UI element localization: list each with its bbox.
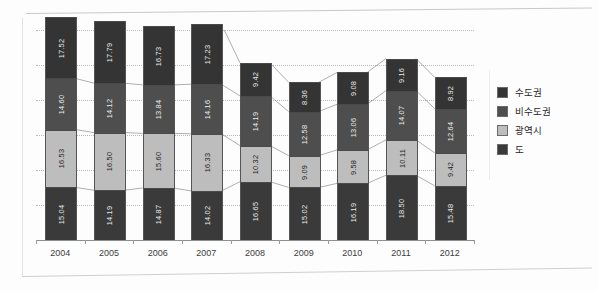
bar-value-label: 17.52 — [57, 39, 66, 59]
bar-segment[interactable]: 15.02 — [290, 187, 320, 240]
legend-item-3[interactable]: 도 — [497, 143, 551, 155]
bar-value-label: 15.02 — [300, 204, 309, 224]
x-axis-label-2006: 2006 — [133, 248, 183, 258]
x-tick — [36, 240, 37, 244]
bar-segment[interactable]: 12.64 — [436, 109, 466, 153]
x-axis-label-2011: 2011 — [376, 248, 426, 258]
legend-swatch-icon — [497, 144, 508, 155]
bar-segment[interactable]: 14.60 — [46, 78, 76, 129]
bar-value-label: 8.92 — [446, 86, 455, 101]
bar-segment[interactable]: 16.33 — [192, 134, 222, 191]
bar-2005[interactable]: 14.1916.5014.1217.79 — [94, 21, 126, 240]
x-axis-label-2004: 2004 — [35, 248, 85, 258]
bar-value-label: 14.16 — [203, 100, 212, 120]
bar-2004[interactable]: 15.0416.5314.6017.52 — [45, 17, 77, 240]
x-axis-line — [36, 240, 474, 241]
bar-segment[interactable]: 8.92 — [436, 77, 466, 108]
bar-value-label: 14.07 — [398, 106, 407, 126]
x-axis-label-2009: 2009 — [279, 248, 329, 258]
bar-value-label: 12.64 — [446, 121, 455, 141]
bar-segment[interactable]: 13.06 — [338, 104, 368, 150]
bar-segment[interactable]: 16.19 — [338, 183, 368, 240]
bar-segment[interactable]: 17.52 — [46, 17, 76, 78]
legend-label: 수도권 — [515, 85, 542, 99]
bar-segment[interactable]: 15.60 — [144, 133, 174, 188]
bar-segment[interactable]: 9.58 — [338, 150, 368, 184]
legend-item-1[interactable]: 비수도권 — [497, 105, 551, 117]
bar-value-label: 9.09 — [300, 164, 309, 179]
bar-segment[interactable]: 18.50 — [387, 175, 417, 240]
bar-value-label: 16.53 — [57, 149, 66, 169]
bar-segment[interactable]: 9.16 — [387, 59, 417, 91]
legend-label: 비수도권 — [515, 104, 551, 118]
bar-value-label: 16.33 — [203, 153, 212, 173]
chart-legend: 수도권비수도권광역시도 — [497, 86, 551, 162]
bar-value-label: 13.06 — [349, 118, 358, 138]
bar-2009[interactable]: 15.029.0912.588.36 — [289, 82, 321, 240]
legend-swatch-icon — [497, 87, 508, 98]
bar-segment[interactable]: 9.09 — [290, 156, 320, 188]
bar-segment[interactable]: 15.04 — [46, 187, 76, 240]
legend-swatch-icon — [497, 106, 508, 117]
bar-2010[interactable]: 16.199.5813.069.08 — [337, 72, 369, 240]
x-tick — [279, 240, 280, 244]
legend-item-2[interactable]: 광역시 — [497, 124, 551, 136]
bar-segment[interactable]: 16.73 — [144, 26, 174, 85]
bar-value-label: 12.58 — [300, 124, 309, 144]
bar-segment[interactable]: 14.16 — [192, 84, 222, 134]
bar-value-label: 15.60 — [154, 151, 163, 171]
plot-area: 15.0416.5314.6017.5214.1916.5014.1217.79… — [36, 30, 474, 240]
bar-segment[interactable]: 10.32 — [241, 146, 271, 182]
bar-segment[interactable]: 12.58 — [290, 112, 320, 156]
bar-segment[interactable]: 16.53 — [46, 130, 76, 188]
bar-value-label: 9.58 — [349, 159, 358, 174]
bar-segment[interactable]: 14.12 — [95, 83, 125, 132]
bar-segment[interactable]: 14.02 — [192, 191, 222, 240]
bar-value-label: 16.19 — [349, 202, 358, 222]
bar-value-label: 14.87 — [154, 205, 163, 225]
bar-value-label: 9.16 — [398, 68, 407, 83]
bar-segment[interactable]: 16.65 — [241, 182, 271, 240]
x-axis-label-2008: 2008 — [230, 248, 280, 258]
x-tick — [133, 240, 134, 244]
bar-segment[interactable]: 17.79 — [95, 21, 125, 83]
bar-2007[interactable]: 14.0216.3314.1617.23 — [191, 24, 223, 240]
bar-segment[interactable]: 10.11 — [387, 140, 417, 175]
frame-line-top — [26, 8, 592, 14]
bar-segment[interactable]: 14.19 — [241, 96, 271, 146]
bar-segment[interactable]: 15.48 — [436, 186, 466, 240]
x-axis-label-2007: 2007 — [181, 248, 231, 258]
legend-item-0[interactable]: 수도권 — [497, 86, 551, 98]
bar-segment[interactable]: 9.42 — [241, 63, 271, 96]
bar-value-label: 14.19 — [106, 206, 115, 226]
legend-label: 도 — [515, 142, 524, 156]
bar-2008[interactable]: 16.6510.3214.199.42 — [240, 63, 272, 240]
frame-line-left — [22, 18, 23, 276]
bar-value-label: 14.12 — [106, 99, 115, 119]
bar-segment[interactable]: 9.42 — [436, 153, 466, 186]
x-axis-label-2005: 2005 — [84, 248, 134, 258]
bar-value-label: 16.50 — [106, 152, 115, 172]
bar-segment[interactable]: 16.50 — [95, 133, 125, 191]
bar-value-label: 17.79 — [106, 43, 115, 63]
bar-value-label: 10.32 — [252, 154, 261, 174]
bar-2006[interactable]: 14.8715.6013.8416.73 — [143, 26, 175, 240]
bar-value-label: 13.84 — [154, 100, 163, 120]
bar-segment[interactable]: 8.36 — [290, 82, 320, 111]
bar-value-label: 16.65 — [252, 202, 261, 222]
legend-swatch-icon — [497, 125, 508, 136]
bar-segment[interactable]: 14.19 — [95, 190, 125, 240]
bar-2011[interactable]: 18.5010.1114.079.16 — [386, 59, 418, 240]
bar-value-label: 10.11 — [397, 149, 406, 168]
bar-value-label: 15.04 — [57, 204, 66, 224]
x-tick — [231, 240, 232, 244]
bar-segment[interactable]: 14.87 — [144, 188, 174, 240]
bar-2012[interactable]: 15.489.4212.648.92 — [435, 77, 467, 240]
bar-segment[interactable]: 13.84 — [144, 85, 174, 133]
x-axis-label-2012: 2012 — [425, 248, 475, 258]
bar-segment[interactable]: 17.23 — [192, 24, 222, 84]
bar-segment[interactable]: 9.08 — [338, 72, 368, 104]
x-tick — [425, 240, 426, 244]
bar-segment[interactable]: 14.07 — [387, 91, 417, 140]
bar-value-label: 18.50 — [398, 198, 407, 218]
